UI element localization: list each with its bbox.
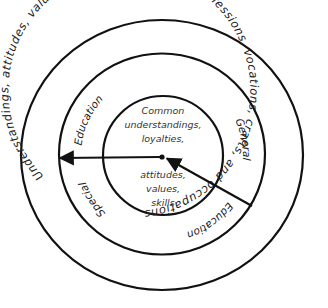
inner-text-bottom: attitudes, values, skills xyxy=(123,168,203,210)
inner-line-values: values, xyxy=(123,182,203,196)
arrow-center-to-special xyxy=(60,157,160,158)
inner-line-loyalties: loyalties, xyxy=(113,132,213,146)
inner-line-common: Common xyxy=(113,104,213,118)
inner-line-understandings: understandings, xyxy=(113,118,213,132)
inner-line-skills: skills xyxy=(123,196,203,210)
inner-text-top: Common understandings, loyalties, xyxy=(113,104,213,146)
center-dot xyxy=(159,154,164,159)
concentric-education-diagram: Understandings, attitudes, values, and s… xyxy=(0,0,328,308)
inner-line-attitudes: attitudes, xyxy=(123,168,203,182)
middle-label-education-upper: Education xyxy=(72,92,105,146)
